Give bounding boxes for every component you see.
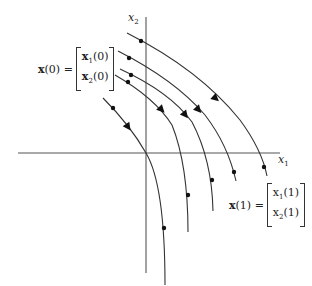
next-point-4 <box>186 193 190 197</box>
next-point-5 <box>162 226 166 230</box>
next-state-lhs: x(1) = <box>229 199 264 212</box>
arrow-icon-2 <box>193 104 204 115</box>
x1-axis-label: x1 <box>278 153 289 168</box>
initial-state-vector: x1(0) x2(0) <box>76 47 115 91</box>
next-state-x1: x1(1) <box>273 185 299 205</box>
next-state-vector: x1(1) x2(1) <box>267 183 305 227</box>
arrow-icon-1 <box>210 93 221 104</box>
initial-state-x1: x1(0) <box>82 49 109 69</box>
x2-axis-label: x2 <box>128 11 139 26</box>
next-point-2 <box>232 170 236 174</box>
next-state-equation: x(1) = x1(1) x2(1) <box>229 183 305 227</box>
initial-point-3 <box>129 73 133 77</box>
trajectory-2 <box>118 51 236 181</box>
initial-state-lhs: x(0) = <box>38 63 73 76</box>
phase-portrait-canvas <box>0 0 312 286</box>
initial-point-2 <box>127 56 131 60</box>
initial-point-4 <box>126 80 130 84</box>
trajectory-3 <box>120 69 213 211</box>
trajectory-1 <box>127 33 267 176</box>
next-point-3 <box>210 178 214 182</box>
initial-state-x2: x2(0) <box>82 69 109 89</box>
trajectory-5 <box>103 98 165 285</box>
next-state-x2: x2(1) <box>273 205 299 225</box>
initial-point-1 <box>139 39 143 43</box>
next-point-1 <box>262 165 266 169</box>
initial-point-5 <box>111 106 115 110</box>
arrow-icon-4 <box>156 104 167 115</box>
initial-state-equation: x(0) = x1(0) x2(0) <box>38 47 114 91</box>
